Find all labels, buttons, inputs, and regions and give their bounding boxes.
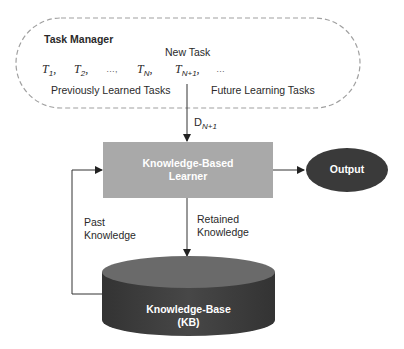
kb-label-line2: (KB) xyxy=(102,316,275,329)
learner-label-line2: Learner xyxy=(103,170,273,183)
task-tn1: TN+1, xyxy=(175,62,200,78)
retained-knowledge-line1: Retained xyxy=(197,213,249,226)
past-knowledge-line1: Past xyxy=(84,216,136,229)
retained-knowledge-line2: Knowledge xyxy=(197,226,249,239)
task-t2: T2, xyxy=(74,62,88,78)
past-knowledge-line2: Knowledge xyxy=(84,229,136,242)
previously-learned-label: Previously Learned Tasks xyxy=(51,84,170,96)
kb-label-line1: Knowledge-Base xyxy=(102,303,275,316)
data-label: DN+1 xyxy=(194,116,217,131)
future-learning-label: Future Learning Tasks xyxy=(211,84,315,96)
task-ellipsis-2: … xyxy=(216,64,225,74)
new-task-label: New Task xyxy=(165,46,210,58)
output-label: Output xyxy=(306,163,388,176)
task-t1: T1, xyxy=(42,62,56,78)
past-knowledge-label: Past Knowledge xyxy=(84,216,136,242)
task-manager-title: Task Manager xyxy=(44,33,113,45)
learner-label: Knowledge-Based Learner xyxy=(103,157,273,183)
learner-label-line1: Knowledge-Based xyxy=(103,157,273,170)
task-ellipsis-1: …, xyxy=(106,64,118,74)
retained-knowledge-label: Retained Knowledge xyxy=(197,213,249,239)
task-tn: TN, xyxy=(137,62,152,78)
knowledge-base-label: Knowledge-Base (KB) xyxy=(102,303,275,329)
